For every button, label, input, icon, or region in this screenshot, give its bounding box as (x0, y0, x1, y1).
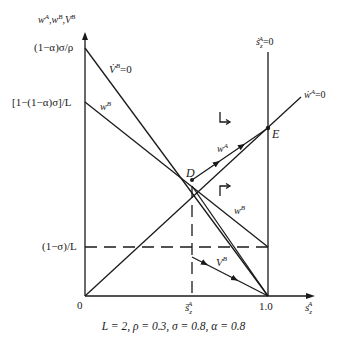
wb2-sup: B (241, 204, 245, 212)
point-d-label: D (186, 167, 195, 179)
y-tick-top: (1−α)σ/ρ (34, 42, 73, 53)
y-axis-arrow (82, 32, 88, 40)
wdot-w: ẇ (304, 89, 311, 100)
wb2: w (234, 205, 241, 216)
w-b-line (85, 102, 268, 247)
origin-label: 0 (77, 300, 83, 311)
x-axis-arrow (306, 293, 315, 299)
sdot-eq: =0 (263, 36, 274, 47)
wdot-eq: =0 (315, 89, 326, 100)
w-b-lower-label: wB (234, 205, 245, 216)
x-tick-one: 1.0 (259, 301, 273, 312)
vb: V (216, 256, 223, 268)
wb1-sup: B (107, 100, 111, 108)
vb-sup: B (223, 255, 227, 263)
x-tick-sbar: s̄zA (185, 301, 192, 316)
w-b-path (192, 186, 268, 296)
x-axis-label: szA (305, 301, 312, 316)
v-b-label: VB (216, 256, 227, 268)
point-e-label: E (272, 128, 279, 140)
wdot-a-zero-label: ẇA=0 (304, 89, 326, 100)
vdot-eq: =0 (120, 63, 132, 75)
x-sbar-sup: A (188, 300, 192, 308)
w-a-path (192, 128, 268, 180)
y-axis-label: wA,wB,VB (38, 14, 75, 25)
y-label-sup-b2: B (71, 13, 75, 21)
x-axis-sub: z (309, 308, 312, 316)
wa-sup: A (224, 142, 228, 150)
wa: w (217, 143, 224, 154)
x-axis-sup: A (308, 300, 312, 308)
y-tick-low: (1−σ)/L (42, 241, 77, 252)
x-sbar-sub: z (189, 308, 192, 316)
w-a-arrow-1 (215, 162, 219, 165)
vdot-b-zero-line (85, 48, 268, 296)
vdot-v: V̇ (109, 63, 116, 75)
point-e (266, 126, 270, 130)
y-label-w: w (38, 14, 45, 25)
w-b-upper-label: wB (100, 101, 111, 112)
w-a-arrow-2 (240, 145, 244, 148)
caption: L = 2, ρ = 0.3, σ = 0.8, α = 0.8 (0, 320, 347, 332)
w-a-label: wA (217, 143, 228, 154)
wb1: w (100, 101, 107, 112)
y-tick-mid: [1−(1−α)σ]/L (12, 97, 72, 108)
vdot-b-zero-label: V̇B=0 (109, 63, 132, 75)
sdot-zero-label: ṡzA=0 (256, 36, 274, 50)
